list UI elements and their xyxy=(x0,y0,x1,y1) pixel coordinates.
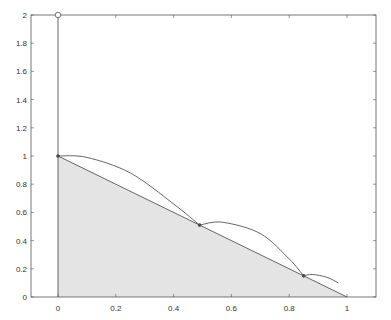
x-tick-label: 0.4 xyxy=(168,304,180,313)
y-tick-label: 0 xyxy=(23,293,28,302)
x-tick-label: 1 xyxy=(345,304,350,313)
x-tick-label: 0.6 xyxy=(226,304,238,313)
chart: 00.20.40.60.811.21.41.61.8200.20.40.60.8… xyxy=(0,0,391,320)
y-tick-label: 1.6 xyxy=(16,67,28,76)
x-tick-label: 0.8 xyxy=(284,304,296,313)
y-tick-label: 0.6 xyxy=(16,208,28,217)
y-tick-label: 1.8 xyxy=(16,39,28,48)
y-tick-label: 0.8 xyxy=(16,180,28,189)
y-tick-label: 0.4 xyxy=(16,237,28,246)
marker-circle xyxy=(55,12,61,18)
y-tick-label: 1.4 xyxy=(16,96,28,105)
y-tick-label: 1 xyxy=(23,152,28,161)
y-tick-label: 2 xyxy=(23,11,28,20)
y-tick-label: 0.2 xyxy=(16,265,28,274)
x-tick-label: 0 xyxy=(56,304,61,313)
y-tick-label: 1.2 xyxy=(16,124,28,133)
x-tick-label: 0.2 xyxy=(110,304,122,313)
